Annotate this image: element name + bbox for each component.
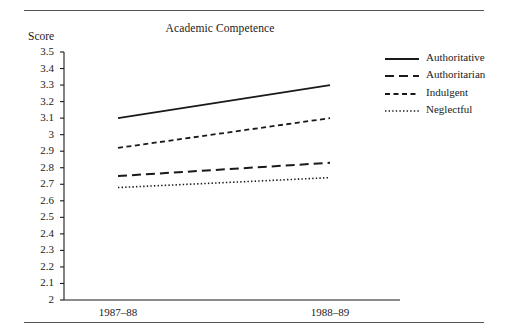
series-line-authoritative <box>118 85 330 118</box>
legend-item: Neglectful <box>384 101 508 119</box>
legend-item-label: Authoritarian <box>426 68 485 80</box>
legend-item: Authoritative <box>384 48 508 66</box>
legend-item: Indulgent <box>384 83 508 101</box>
legend-item-label: Neglectful <box>426 103 472 115</box>
legend-line-swatch <box>384 86 420 98</box>
legend-item-label: Authoritative <box>426 51 485 63</box>
series-line-neglectful <box>118 178 330 188</box>
line-chart: Academic Competence Score 3.53.43.33.23.… <box>0 0 508 336</box>
series-line-authoritarian <box>118 163 330 176</box>
legend-line-swatch <box>384 51 420 63</box>
series-lines <box>118 85 330 188</box>
legend-line-swatch <box>384 103 420 115</box>
legend-line-swatch <box>384 68 420 80</box>
legend-item: Authoritarian <box>384 66 508 84</box>
series-line-indulgent <box>118 118 330 148</box>
chart-legend: AuthoritativeAuthoritarianIndulgentNegle… <box>384 48 508 118</box>
legend-item-label: Indulgent <box>426 86 468 98</box>
axes <box>60 52 400 300</box>
figure-root: Academic Competence Score 3.53.43.33.23.… <box>0 0 508 336</box>
